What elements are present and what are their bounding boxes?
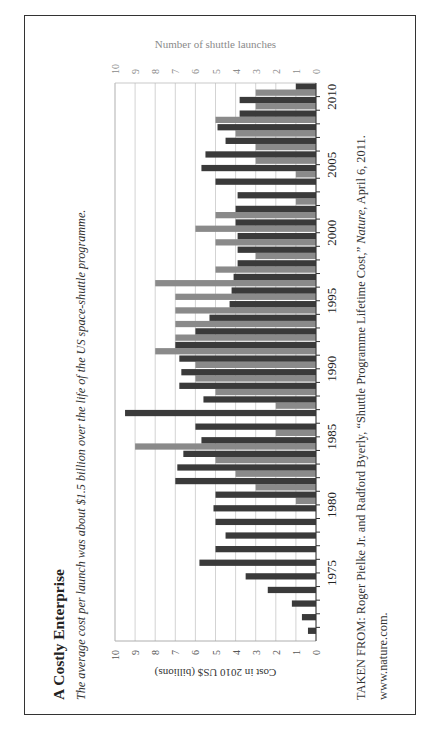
cost-bar-2000 xyxy=(238,233,316,239)
cost-bar-1992 xyxy=(175,342,316,348)
cost-bar-1991 xyxy=(179,355,316,361)
cost-bar-2001 xyxy=(236,219,316,225)
cost-bar-1980 xyxy=(213,505,316,511)
cost-bar-1976 xyxy=(199,560,316,566)
launch-bar-1988 xyxy=(276,403,316,409)
cost-bar-1984 xyxy=(183,451,316,457)
cost-bar-1996 xyxy=(232,287,316,293)
launch-tick-label: 1 xyxy=(291,69,302,74)
cost-bar-1973 xyxy=(292,600,316,606)
cost-bar-1998 xyxy=(238,260,316,266)
launch-tick-label: 8 xyxy=(150,69,161,74)
launch-tick-label: 5 xyxy=(211,69,222,74)
source-journal: Nature xyxy=(354,210,368,244)
year-label-1975: 1975 xyxy=(324,560,339,586)
launch-bar-2010 xyxy=(256,103,316,109)
cost-tick-label: 7 xyxy=(170,650,181,655)
cost-bar-2008 xyxy=(218,124,316,130)
cost-tick-label: 3 xyxy=(251,650,262,655)
launch-bar-1995 xyxy=(175,307,316,313)
cost-bar-1990 xyxy=(181,369,316,375)
cost-tick-label: 4 xyxy=(231,650,242,655)
cost-tick-label: 6 xyxy=(190,650,201,655)
launch-bar-2003 xyxy=(296,198,316,204)
cost-bar-2009 xyxy=(240,110,316,116)
cost-axis-title: Cost in 2010 US$ (billions) xyxy=(154,666,276,679)
launch-bar-1999 xyxy=(256,253,316,259)
cost-bar-1982 xyxy=(175,478,316,484)
source-citation: TAKEN FROM: Roger Pielke Jr. and Radford… xyxy=(354,135,369,700)
launch-tick-label: 10 xyxy=(110,64,121,74)
launch-tick-label: 3 xyxy=(251,69,262,74)
launch-tick-label: 0 xyxy=(311,69,322,74)
launch-bar-1991 xyxy=(195,362,316,368)
launch-bar-2005 xyxy=(296,171,316,177)
launch-bar-2000 xyxy=(216,239,317,245)
launch-bar-2007 xyxy=(256,144,316,150)
rotated-figure: A Costly Enterprise The average cost per… xyxy=(24,15,417,716)
cost-bar-1985 xyxy=(201,437,316,443)
cost-bar-1994 xyxy=(209,315,316,321)
cost-bar-1987 xyxy=(125,410,316,416)
launch-bar-1982 xyxy=(256,484,316,490)
year-label-2005: 2005 xyxy=(324,152,339,178)
launch-tick-label: 6 xyxy=(190,69,201,74)
launch-bar-1998 xyxy=(216,266,317,272)
launch-bar-1989 xyxy=(216,389,317,395)
cost-bar-1977 xyxy=(216,546,317,552)
source-url: www.nature.com. xyxy=(376,612,391,700)
cost-tick-label: 5 xyxy=(211,650,222,655)
launch-bar-1985 xyxy=(135,443,316,449)
year-label-2000: 2000 xyxy=(324,220,339,246)
cost-bar-1995 xyxy=(230,301,316,307)
launch-bar-1983 xyxy=(236,471,316,477)
cost-bar-1978 xyxy=(226,532,316,538)
year-label-2010: 2010 xyxy=(324,84,339,110)
launch-bar-1992 xyxy=(155,348,316,354)
launch-bar-1993 xyxy=(175,335,316,341)
cost-bar-1975 xyxy=(246,573,316,579)
cost-bar-1974 xyxy=(268,587,316,593)
launch-bar-2001 xyxy=(195,226,316,232)
cost-bar-1993 xyxy=(195,328,316,334)
launch-tick-label: 9 xyxy=(130,69,141,74)
launch-bar-2008 xyxy=(236,130,316,136)
launch-bar-1984 xyxy=(216,457,317,463)
launch-tick-label: 2 xyxy=(271,69,282,74)
launch-tick-label: 4 xyxy=(231,69,242,74)
cost-bar-1972 xyxy=(302,614,316,620)
year-label-1990: 1990 xyxy=(324,356,339,382)
cost-bar-2004 xyxy=(216,179,317,185)
launch-tick-label: 7 xyxy=(170,69,181,74)
source-suffix: , April 6, 2011. xyxy=(354,135,368,210)
year-label-1980: 1980 xyxy=(324,492,339,518)
cost-bar-1981 xyxy=(216,492,317,498)
cost-tick-label: 1 xyxy=(291,650,302,655)
launch-bar-1986 xyxy=(276,430,316,436)
cost-tick-label: 8 xyxy=(150,650,161,655)
launch-bar-1981 xyxy=(296,498,316,504)
cost-bar-2002 xyxy=(236,206,316,212)
source-prefix: TAKEN FROM: Roger Pielke Jr. and Radford… xyxy=(354,244,368,700)
cost-bar-1971 xyxy=(308,628,316,634)
launch-bar-1994 xyxy=(175,321,316,327)
cost-bar-1979 xyxy=(216,519,317,525)
cost-bar-1988 xyxy=(203,396,316,402)
bars xyxy=(125,83,316,634)
cost-bar-1989 xyxy=(179,383,316,389)
cost-tick-label: 9 xyxy=(130,650,141,655)
cost-tick-label: 0 xyxy=(311,650,322,655)
year-label-1995: 1995 xyxy=(324,288,339,314)
cost-bar-1999 xyxy=(238,247,316,253)
cost-bar-2007 xyxy=(226,138,316,144)
launch-bar-2009 xyxy=(216,117,317,123)
launch-bar-1996 xyxy=(175,294,316,300)
launch-bar-1990 xyxy=(195,375,316,381)
cost-bar-1997 xyxy=(234,274,316,280)
year-label-1985: 1985 xyxy=(324,424,339,450)
cost-bar-2005 xyxy=(201,165,316,171)
cost-tick-label: 10 xyxy=(110,650,121,660)
cost-bar-1983 xyxy=(177,464,316,470)
launch-bar-2002 xyxy=(216,212,317,218)
launch-bar-2006 xyxy=(256,158,316,164)
